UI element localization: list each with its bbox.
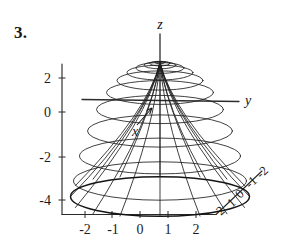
mesh-meridian xyxy=(76,63,161,208)
y-tick-label: 0 xyxy=(137,222,144,237)
z-tick-label: 2 xyxy=(44,71,51,86)
y-axis-tick-labels: -2 -1 0 1 2 xyxy=(79,222,199,237)
paraboloid-3d-plot: 2 0 -2 -4 -2 -1 0 1 2 2 1 0 -1 -2 xyxy=(0,0,301,240)
y-axis-through-line xyxy=(82,100,239,102)
x-tick-label: -2 xyxy=(253,163,271,181)
z-tick-label: -4 xyxy=(39,193,51,208)
paraboloid-wireframe-mesh xyxy=(71,61,250,216)
z-axis-tick-labels: 2 0 -2 -4 xyxy=(39,71,51,208)
y-axis-label: y xyxy=(243,93,252,108)
y-tick-label: -1 xyxy=(107,222,119,237)
z-tick-label: 0 xyxy=(44,105,51,120)
z-tick-label: -2 xyxy=(39,150,51,165)
x-axis-label: x xyxy=(131,124,139,139)
z-axis-label: z xyxy=(156,17,163,32)
y-tick-label: -2 xyxy=(79,222,91,237)
y-tick-label: 1 xyxy=(165,222,172,237)
figure-container: 3. 2 0 -2 -4 -2 xyxy=(0,0,301,240)
mesh-meridian xyxy=(160,63,245,208)
y-tick-label: 2 xyxy=(193,222,200,237)
